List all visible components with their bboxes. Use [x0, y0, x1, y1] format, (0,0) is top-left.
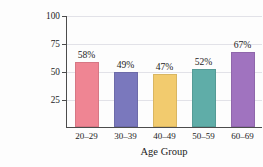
x-tick-label: 50–59	[184, 131, 223, 141]
bar[interactable]	[153, 74, 177, 127]
bar[interactable]	[192, 69, 216, 127]
x-axis-line	[66, 127, 262, 128]
bars-layer: 58%49%47%52%67%	[67, 16, 262, 127]
cropped-title-remnant	[148, 0, 218, 5]
y-tick-label: 25	[51, 95, 60, 105]
bar-chart-figure: Percentage for Whom Having a Clean House…	[0, 0, 263, 167]
plot-wrap: 255075100 58%49%47%52%67%	[66, 16, 262, 128]
bar-group[interactable]: 52%	[184, 16, 223, 127]
bar-value-label: 67%	[234, 39, 252, 50]
bar-group[interactable]: 67%	[223, 16, 262, 127]
x-tick-label: 20–29	[67, 131, 106, 141]
bar[interactable]	[114, 72, 138, 127]
bar-group[interactable]: 58%	[67, 16, 106, 127]
bar-value-label: 58%	[78, 49, 96, 60]
bar[interactable]	[75, 62, 99, 127]
y-tick-label: 50	[51, 67, 60, 77]
bar-value-label: 47%	[156, 61, 174, 72]
bar-value-label: 52%	[195, 56, 213, 67]
bar[interactable]	[231, 52, 255, 127]
x-tick-label: 60–69	[223, 131, 262, 141]
y-tick-label: 100	[46, 11, 60, 21]
bar-group[interactable]: 49%	[106, 16, 145, 127]
bar-value-label: 49%	[117, 59, 135, 70]
bar-group[interactable]: 47%	[145, 16, 184, 127]
plot-area: 255075100 58%49%47%52%67%	[66, 16, 262, 128]
x-axis-tick-labels: 20–2930–3940–4950–5960–69	[67, 131, 262, 141]
x-tick-label: 40–49	[145, 131, 184, 141]
x-tick-label: 30–39	[106, 131, 145, 141]
x-axis-title: Age Group	[66, 146, 262, 157]
y-tick-label: 75	[51, 39, 60, 49]
